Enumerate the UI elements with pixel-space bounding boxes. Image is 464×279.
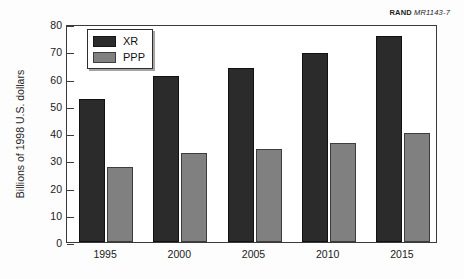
y-axis-tick-label: 70: [36, 47, 62, 58]
y-axis-tick: [67, 190, 74, 191]
x-axis-tick-label: 1995: [75, 248, 135, 260]
bar-ppp-2015: [404, 133, 430, 242]
chart-legend: XR PPP: [87, 29, 153, 69]
x-axis-tick-label: 2010: [298, 248, 358, 260]
bar-chart-figure: RANDMR1143-7 Billions of 1998 U.S. dolla…: [0, 0, 464, 279]
x-axis-tick-label: 2000: [149, 248, 209, 260]
bar-group: [376, 26, 430, 242]
y-axis-tick: [67, 53, 74, 54]
rand-figure-id: MR1143-7: [414, 8, 450, 17]
y-axis-tick-label: 20: [36, 183, 62, 194]
x-axis-tick-label: 2015: [372, 248, 432, 260]
y-axis-tick: [67, 108, 74, 109]
legend-item-ppp: PPP: [93, 50, 145, 64]
y-axis-tick: [67, 162, 74, 163]
legend-swatch-xr-icon: [93, 36, 116, 47]
y-axis-tick-label: 30: [36, 156, 62, 167]
rand-source-label: RANDMR1143-7: [389, 8, 450, 17]
bar-xr-2010: [302, 53, 328, 242]
y-axis-tick-label: 40: [36, 129, 62, 140]
bar-ppp-1995: [107, 167, 133, 242]
y-axis-tick: [67, 81, 74, 82]
y-axis-title: Billions of 1998 U.S. dollars: [14, 25, 28, 243]
bar-ppp-2000: [181, 153, 207, 242]
y-axis-tick-label: 60: [36, 74, 62, 85]
legend-label-ppp: PPP: [123, 52, 145, 63]
legend-item-xr: XR: [93, 34, 145, 48]
y-axis-tick: [67, 135, 74, 136]
bar-xr-2000: [153, 76, 179, 242]
rand-org-name: RAND: [389, 8, 411, 17]
y-axis-tick-label: 10: [36, 211, 62, 222]
bar-xr-2015: [376, 36, 402, 242]
bar-xr-1995: [79, 99, 105, 242]
legend-swatch-ppp-icon: [93, 52, 116, 63]
y-axis-tick: [67, 26, 74, 27]
legend-label-xr: XR: [123, 36, 138, 47]
y-axis-tick-label: 50: [36, 102, 62, 113]
bar-group: [153, 26, 207, 242]
y-axis-tick: [67, 217, 74, 218]
y-axis-tick: [67, 244, 74, 245]
y-axis-tick-label: 0: [36, 238, 62, 249]
bar-xr-2005: [228, 68, 254, 242]
bar-ppp-2010: [330, 143, 356, 242]
y-axis-tick-label: 80: [36, 20, 62, 31]
bar-group: [228, 26, 282, 242]
bar-group: [302, 26, 356, 242]
bar-ppp-2005: [256, 149, 282, 242]
x-axis-tick-label: 2005: [224, 248, 284, 260]
